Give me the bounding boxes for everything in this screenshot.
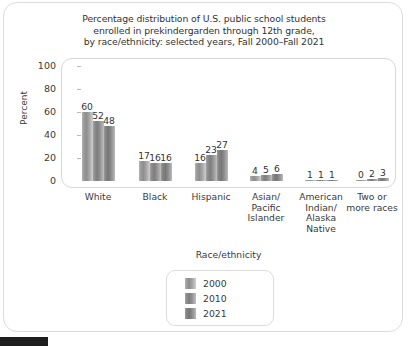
- bar-value-label: 16: [160, 153, 172, 163]
- x-axis-category-labels: WhiteBlackHispanicAsian/PacificIslanderA…: [61, 192, 396, 247]
- bar: 0: [356, 180, 367, 181]
- bar-group: 111: [302, 58, 340, 188]
- legend-item[interactable]: 2021: [185, 306, 273, 321]
- bar: 5: [261, 175, 272, 181]
- legend-item[interactable]: 2010: [185, 291, 273, 306]
- bar-group: 162327: [192, 58, 230, 188]
- y-tick-label: 100: [30, 61, 56, 71]
- bar-value-label: 0: [358, 170, 364, 180]
- bar: 17: [139, 161, 150, 181]
- bar: 3: [378, 178, 389, 181]
- bars-layer: 605248171616162327456111023: [61, 58, 396, 188]
- chart-title-line-3: by race/ethnicity: selected years, Fall …: [4, 36, 404, 48]
- bar-value-label: 4: [252, 166, 258, 176]
- bar: 16: [150, 163, 161, 181]
- x-axis-label: Asian/PacificIslander: [243, 192, 289, 224]
- bar: 60: [82, 112, 93, 181]
- bar-group: 456: [247, 58, 285, 188]
- y-tick-label: 40: [30, 130, 56, 140]
- x-axis-label-line: American: [296, 192, 346, 203]
- bar: 48: [104, 126, 115, 181]
- bar-group-bars: 162327: [192, 51, 230, 188]
- legend-label: 2010: [203, 293, 227, 304]
- bar: 27: [217, 150, 228, 181]
- y-tick-label: 60: [30, 107, 56, 117]
- bar-group: 605248: [79, 58, 117, 188]
- legend-swatch: [185, 293, 196, 304]
- bar-value-label: 1: [307, 170, 313, 180]
- y-tick-label: 20: [30, 153, 56, 163]
- chart-title: Percentage distribution of U.S. public s…: [4, 13, 404, 48]
- bar: 52: [93, 121, 104, 181]
- x-axis-label-line: Two or: [343, 192, 401, 203]
- x-axis-label: AmericanIndian/AlaskaNative: [296, 192, 346, 234]
- bottom-marker-bar: [0, 337, 48, 346]
- bar-group-bars: 171616: [136, 51, 174, 188]
- bar-value-label: 60: [81, 102, 93, 112]
- bar: 16: [161, 163, 172, 181]
- bar-value-label: 27: [216, 140, 228, 150]
- bar: 16: [195, 163, 206, 181]
- bar-group-bars: 111: [302, 51, 340, 188]
- bar-value-label: 48: [103, 116, 115, 126]
- bar: 1: [316, 180, 327, 181]
- x-axis-title: Race/ethnicity: [61, 249, 396, 260]
- x-axis-label-line: more races: [343, 203, 401, 214]
- figure-card: Percentage distribution of U.S. public s…: [3, 2, 403, 332]
- chart-title-line-2: enrolled in prekindergarden through 12th…: [4, 25, 404, 37]
- legend-label: 2000: [203, 278, 227, 289]
- bar: 1: [305, 180, 316, 181]
- legend-label: 2021: [203, 308, 227, 319]
- bar: 23: [206, 155, 217, 181]
- bar: 4: [250, 176, 261, 181]
- bar-value-label: 2: [369, 169, 375, 179]
- bar-value-label: 1: [318, 170, 324, 180]
- legend-swatch: [185, 308, 196, 319]
- x-axis-label-line: Native: [296, 224, 346, 235]
- bar-value-label: 16: [194, 153, 206, 163]
- x-axis-label-line: Islander: [243, 213, 289, 224]
- chart-title-line-1: Percentage distribution of U.S. public s…: [4, 13, 404, 25]
- legend-swatch: [185, 278, 196, 289]
- bar-value-label: 1: [329, 170, 335, 180]
- bar-group: 023: [353, 58, 391, 188]
- x-axis-label: Hispanic: [188, 192, 234, 203]
- bar-value-label: 6: [274, 164, 280, 174]
- x-axis-label: White: [79, 192, 117, 203]
- bar-value-label: 52: [92, 111, 104, 121]
- x-axis-label: Black: [136, 192, 174, 203]
- bar-group-bars: 023: [353, 51, 391, 188]
- bar-value-label: 17: [138, 151, 150, 161]
- bar-value-label: 3: [380, 168, 386, 178]
- x-axis-label: Two ormore races: [343, 192, 401, 213]
- y-tick-label: 0: [30, 176, 56, 186]
- bar: 1: [327, 180, 338, 181]
- bar-group: 171616: [136, 58, 174, 188]
- bar-group-bars: 605248: [79, 51, 117, 188]
- x-axis-label-line: White: [79, 192, 117, 203]
- legend: 200020102021: [166, 270, 274, 326]
- bar-value-label: 16: [149, 153, 161, 163]
- bar-group-bars: 456: [247, 51, 285, 188]
- y-tick-label: 80: [30, 84, 56, 94]
- x-axis-label-line: Asian/: [243, 192, 289, 203]
- x-axis-label-line: Black: [136, 192, 174, 203]
- legend-item[interactable]: 2000: [185, 276, 273, 291]
- x-axis-label-line: Hispanic: [188, 192, 234, 203]
- bar-value-label: 23: [205, 145, 217, 155]
- bar-value-label: 5: [263, 165, 269, 175]
- bar: 2: [367, 179, 378, 181]
- y-axis-ticks: 100806040200: [26, 3, 56, 347]
- bar: 6: [272, 174, 283, 181]
